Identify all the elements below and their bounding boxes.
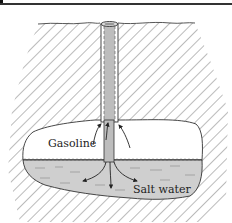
gasoline-label: Gasoline: [48, 137, 96, 150]
diagram-illustration: [0, 0, 232, 223]
underground-storage-diagram: Gasoline Salt water: [0, 0, 232, 223]
salt-water-label: Salt water: [133, 183, 191, 196]
